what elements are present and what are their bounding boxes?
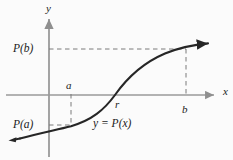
r-label: r: [115, 99, 119, 110]
b-label: b: [182, 104, 188, 115]
curve-left-arrow-tip: [9, 137, 17, 142]
p-of-a-label: P(a): [13, 119, 33, 131]
p-of-b-label: P(b): [13, 43, 33, 55]
curve-equation-label: y = P(x): [93, 118, 131, 130]
polynomial-graph-figure: y x P(b) P(a) a b r y = P(x): [0, 0, 233, 160]
x-axis-label: x: [223, 86, 228, 97]
graph-canvas: [0, 0, 233, 160]
y-axis-label: y: [46, 3, 51, 14]
a-label: a: [66, 80, 72, 91]
